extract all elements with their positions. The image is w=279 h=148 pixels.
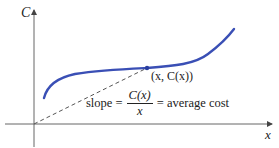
- slope-fraction: C(x) x: [127, 89, 153, 118]
- cost-curve-diagram: [0, 0, 279, 148]
- point-label: (x, C(x)): [151, 70, 193, 82]
- x-axis-label: x: [265, 128, 271, 141]
- slope-prefix: slope =: [86, 96, 123, 111]
- slope-annotation: slope = C(x) x = average cost: [86, 89, 229, 118]
- y-axis-label: C: [21, 6, 30, 20]
- slope-suffix: = average cost: [157, 96, 229, 111]
- point-marker: [145, 66, 149, 70]
- fraction-numerator: C(x): [127, 89, 153, 104]
- fraction-denominator: x: [137, 104, 143, 118]
